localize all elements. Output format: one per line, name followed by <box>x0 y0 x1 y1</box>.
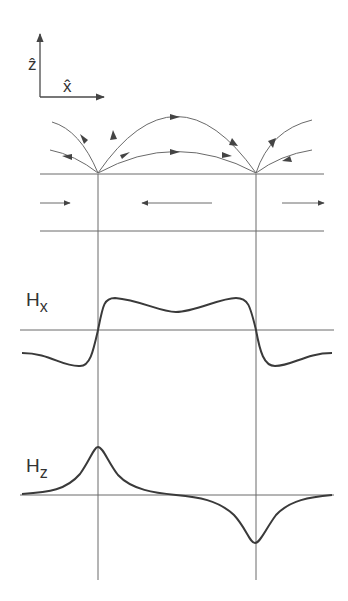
field-arrow <box>282 156 292 162</box>
hx-plot: Hx <box>20 289 334 366</box>
domain-wall-diagram: ẑ x̂ Hx <box>0 0 348 601</box>
hz-label: Hz <box>26 455 48 481</box>
stray-field-lines <box>50 114 312 173</box>
field-arrow <box>222 152 232 158</box>
field-arrow <box>170 149 180 155</box>
field-line-left-low <box>50 150 98 173</box>
field-arrow <box>229 138 238 146</box>
hz-plot: Hz <box>20 447 334 543</box>
z-axis-label: ẑ <box>28 55 37 74</box>
field-line-right-high <box>256 120 312 173</box>
field-arrow <box>110 130 117 140</box>
hx-label: Hx <box>26 289 48 315</box>
coordinate-axes: ẑ x̂ <box>28 34 104 97</box>
field-line-left-high <box>52 122 98 173</box>
field-arrow <box>120 152 130 159</box>
film <box>40 174 324 231</box>
x-axis-label: x̂ <box>63 77 72 96</box>
hx-curve <box>22 298 332 366</box>
field-arrow <box>170 114 180 120</box>
